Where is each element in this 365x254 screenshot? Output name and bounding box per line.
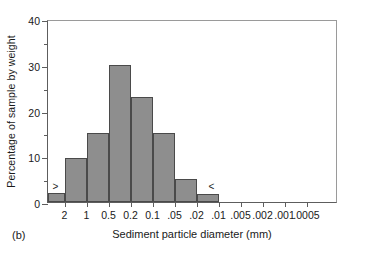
annotation-greater-than: > <box>53 182 59 192</box>
y-tick <box>42 158 48 159</box>
y-tick-label: 20 <box>0 107 40 119</box>
x-tick-label: 0.5 <box>101 209 116 221</box>
y-tick-label: 30 <box>0 61 40 73</box>
x-tick-label: 0.2 <box>123 209 138 221</box>
y-tick-label: 40 <box>0 15 40 27</box>
x-tick-label: .001 <box>274 209 294 221</box>
bar <box>131 97 153 202</box>
x-tick-label: .02 <box>189 209 204 221</box>
bar <box>175 179 197 202</box>
x-tick <box>219 202 220 207</box>
x-tick-label: .01 <box>211 209 226 221</box>
x-tick <box>241 202 242 207</box>
x-tick <box>153 202 154 207</box>
bar <box>87 133 109 202</box>
y-tick <box>42 21 48 22</box>
y-tick <box>42 113 48 114</box>
y-tick-label: 10 <box>0 152 40 164</box>
x-tick-label: 1 <box>84 209 90 221</box>
bar-series <box>48 21 336 202</box>
x-tick <box>109 202 110 207</box>
y-tick-label: 0 <box>0 198 40 210</box>
x-tick <box>263 202 264 207</box>
x-tick <box>131 202 132 207</box>
y-tick <box>42 204 48 205</box>
x-tick <box>175 202 176 207</box>
x-tick-label: .002 <box>252 209 272 221</box>
y-tick-minor <box>44 181 48 182</box>
x-tick-label: .05 <box>167 209 182 221</box>
x-tick <box>307 202 308 207</box>
x-tick <box>197 202 198 207</box>
panel-label: (b) <box>12 229 25 241</box>
bar <box>197 194 219 202</box>
y-tick <box>42 67 48 68</box>
x-tick-label: 2 <box>62 209 68 221</box>
x-tick-label: .0005 <box>293 209 319 221</box>
x-tick-label: .005 <box>230 209 250 221</box>
annotation-less-than: < <box>209 182 215 192</box>
x-tick <box>87 202 88 207</box>
bar <box>109 65 131 202</box>
bar <box>153 133 175 202</box>
x-axis-title: Sediment particle diameter (mm) <box>47 228 337 240</box>
figure-histogram-sediment: Percentage of sample by weight 010203040… <box>0 0 365 254</box>
x-tick <box>285 202 286 207</box>
x-tick-label: 0.1 <box>145 209 160 221</box>
plot-area: 010203040 210.50.20.1.05.02.01.005.002.0… <box>47 20 337 203</box>
y-tick-minor <box>44 90 48 91</box>
bar <box>48 193 65 202</box>
y-tick-minor <box>44 44 48 45</box>
y-tick-minor <box>44 135 48 136</box>
bar <box>65 158 87 202</box>
x-tick <box>65 202 66 207</box>
